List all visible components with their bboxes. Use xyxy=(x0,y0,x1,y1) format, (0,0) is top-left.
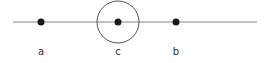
point-b xyxy=(173,19,180,26)
label-a: a xyxy=(38,46,44,57)
point-c xyxy=(115,19,122,26)
label-c: c xyxy=(115,46,121,57)
number-line-diagram: a c b xyxy=(0,0,273,63)
point-a xyxy=(38,19,45,26)
label-b: b xyxy=(173,46,179,57)
